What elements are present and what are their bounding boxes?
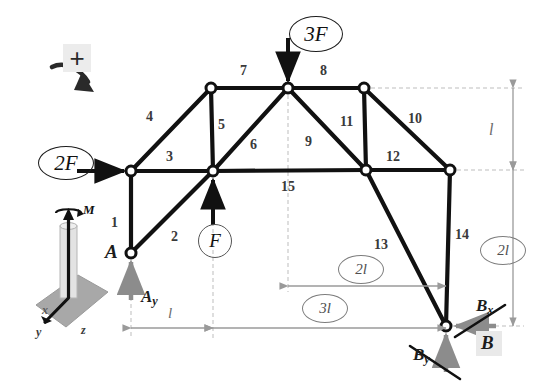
joint-B xyxy=(441,321,451,331)
dim-label-v-2l: 2l xyxy=(480,236,526,265)
member-label-3: 3 xyxy=(166,150,173,164)
member-label-15: 15 xyxy=(281,180,295,194)
joint-N5 xyxy=(359,83,369,93)
member-5 xyxy=(211,88,213,171)
member-label-4: 4 xyxy=(146,110,153,124)
reaction-label-Bx: Bx xyxy=(476,297,493,316)
moment-icon-label-M: M xyxy=(83,203,95,216)
truss-diagram: + 2F 3F F 1 2 3 4 5 6 7 8 9 10 11 12 13 … xyxy=(0,0,544,387)
joint-N2 xyxy=(206,83,216,93)
member-label-6: 6 xyxy=(250,138,257,152)
member-15 xyxy=(213,170,366,171)
joint-apex xyxy=(283,83,293,93)
member-label-1: 1 xyxy=(111,216,118,230)
truss-members xyxy=(131,88,450,326)
member-label-12: 12 xyxy=(386,150,400,164)
support-label-A: A xyxy=(105,242,118,261)
load-label-F: F xyxy=(198,224,232,258)
member-label-8: 8 xyxy=(320,64,327,78)
support-label-B: B xyxy=(481,333,494,352)
member-label-9: 9 xyxy=(305,135,312,149)
reaction-label-Ay: Ay xyxy=(141,288,158,307)
member-11 xyxy=(364,88,366,170)
moment-icon-axis-z: z xyxy=(81,324,86,336)
member-9 xyxy=(288,88,366,170)
member-label-13: 13 xyxy=(374,238,388,252)
load-label-3F: 3F xyxy=(289,16,343,52)
moment-icon-axis-y: y xyxy=(36,326,41,338)
member-label-10: 10 xyxy=(408,112,422,126)
member-label-14: 14 xyxy=(455,228,469,242)
load-label-2F: 2F xyxy=(38,146,94,180)
joint-N7 xyxy=(445,165,455,175)
joint-N3 xyxy=(208,166,218,176)
moment-icon-axis-x: x xyxy=(42,304,48,316)
dim-label-h-2l: 2l xyxy=(338,255,384,284)
member-14 xyxy=(446,170,450,326)
load-arrows xyxy=(77,38,288,225)
sign-convention-plus: + xyxy=(63,44,91,72)
member-label-5: 5 xyxy=(218,118,225,132)
reaction-label-By: By xyxy=(413,346,430,365)
dim-label-h-3l: 3l xyxy=(302,294,348,323)
member-label-2: 2 xyxy=(171,230,178,244)
dim-label-v-l: l xyxy=(489,122,493,138)
member-label-7: 7 xyxy=(240,64,247,78)
dim-label-h-l: l xyxy=(168,306,172,321)
member-label-11: 11 xyxy=(340,115,353,129)
member-10 xyxy=(364,88,450,170)
joint-N6 xyxy=(361,165,371,175)
joint-N1 xyxy=(126,166,136,176)
joint-A xyxy=(126,248,136,258)
